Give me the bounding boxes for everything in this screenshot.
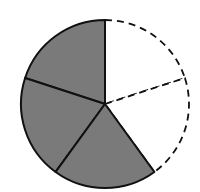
pie-sectors [21, 20, 189, 188]
fraction-pie-diagram [0, 0, 200, 192]
